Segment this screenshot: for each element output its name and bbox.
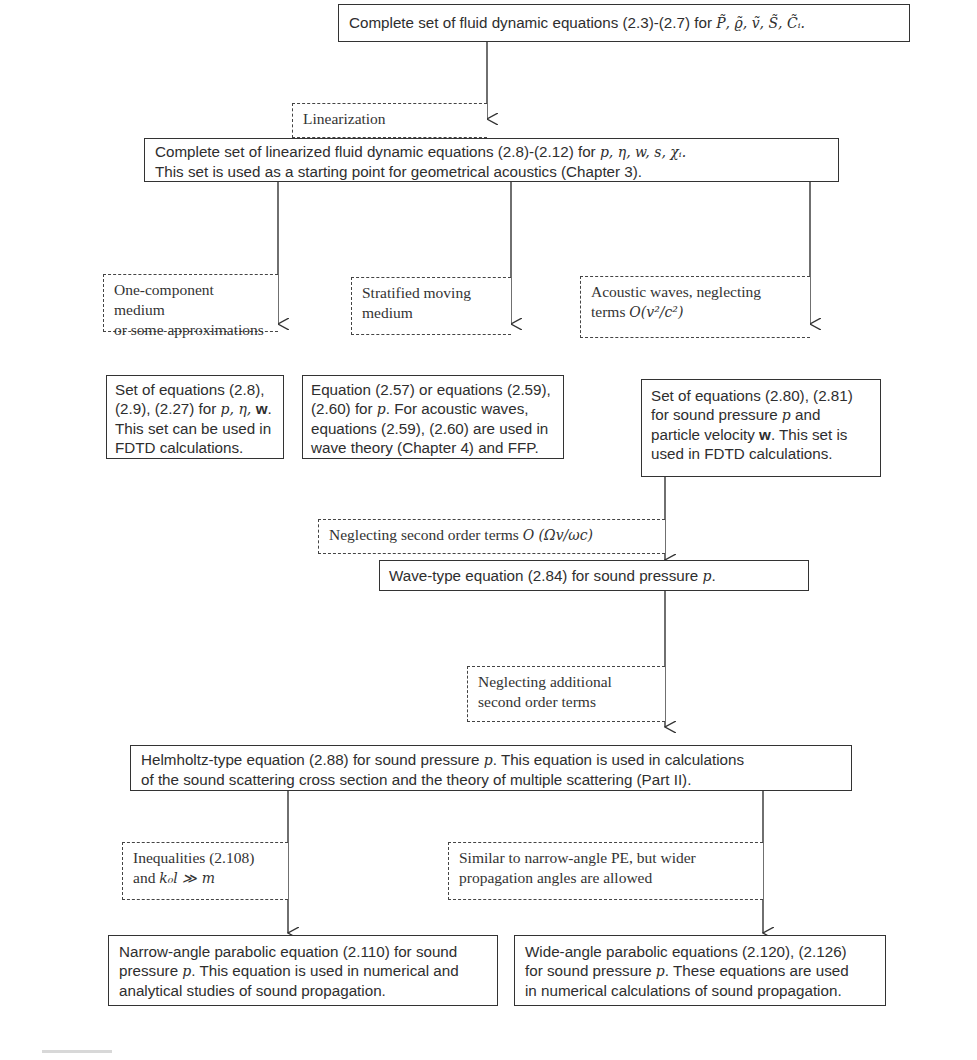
- condition-line: Acoustic waves, neglecting: [591, 282, 800, 302]
- node-line: of the sound scattering cross section an…: [141, 770, 841, 789]
- node-vars: P̃, ϱ̃, ṽ, S̃, C̃ᵢ.: [716, 15, 805, 31]
- node-line: Narrow-angle parabolic equation (2.110) …: [119, 942, 487, 961]
- node-vector: w: [256, 400, 268, 417]
- condition-line: terms: [591, 303, 629, 320]
- node-narrow-angle-pe: Narrow-angle parabolic equation (2.110) …: [108, 935, 498, 1006]
- condition-line: Neglecting additional: [478, 672, 655, 692]
- node-var: p: [377, 401, 386, 417]
- node-line: . These equations are used: [665, 962, 849, 979]
- condition-line: Similar to narrow-angle PE, but wider: [459, 848, 753, 868]
- node-line: . This equation is used in calculations: [493, 751, 744, 768]
- condition-line: propagation angles are allowed: [459, 868, 753, 888]
- condition-acoustic-waves: Acoustic waves, neglecting terms O(v²/c²…: [580, 276, 810, 338]
- node-helmholtz-equation: Helmholtz-type equation (2.88) for sound…: [130, 745, 852, 791]
- node-line: (2.60) for: [311, 400, 377, 417]
- node-line: Helmholtz-type equation (2.88) for sound…: [141, 751, 484, 768]
- condition-line: second order terms: [478, 692, 655, 712]
- node-line: This set is used as a starting point for…: [155, 162, 828, 181]
- node-line: pressure: [119, 962, 182, 979]
- node-line: wave theory (Chapter 4) and FFP.: [311, 438, 555, 457]
- node-text: Complete set of fluid dynamic equations …: [349, 14, 716, 31]
- condition-math: O (Ωv/ωc): [523, 527, 593, 543]
- node-wide-angle-pe: Wide-angle parabolic equations (2.120), …: [514, 935, 886, 1006]
- node-line: Equation (2.57) or equations (2.59),: [311, 380, 555, 399]
- node-line: used in FDTD calculations.: [651, 444, 871, 463]
- node-line: Complete set of linearized fluid dynamic…: [155, 143, 600, 160]
- condition-line: medium: [362, 303, 501, 323]
- node-line: FDTD calculations.: [115, 438, 275, 457]
- condition-line: Stratified moving: [362, 283, 501, 303]
- node-var: p: [656, 963, 665, 979]
- condition-text: Linearization: [303, 110, 386, 127]
- node-line: analytical studies of sound propagation.: [119, 981, 487, 1000]
- condition-neglect-second-order: Neglecting second order terms O (Ωv/ωc): [318, 519, 665, 554]
- condition-linearization: Linearization: [292, 103, 487, 138]
- node-var: p: [782, 407, 791, 423]
- node-line: . This set is: [771, 426, 848, 443]
- node-line: .: [268, 400, 272, 417]
- node-stratified-equations: Equation (2.57) or equations (2.59), (2.…: [302, 375, 564, 459]
- node-vars: p, η, w, s, χᵢ.: [600, 144, 686, 160]
- node-line: Wave-type equation (2.84) for sound pres…: [389, 567, 702, 584]
- node-line: particle velocity: [651, 426, 759, 443]
- node-line: . This equation is used in numerical and: [191, 962, 458, 979]
- condition-stratified-moving-medium: Stratified moving medium: [351, 277, 511, 335]
- condition-inequalities: Inequalities (2.108) and k₀l ≫ m: [122, 842, 288, 900]
- node-line: (2.9), (2.27) for: [115, 400, 221, 417]
- condition-text: Neglecting second order terms: [329, 526, 523, 543]
- condition-math: k₀l ≫ m: [159, 870, 215, 886]
- node-line: in numerical calculations of sound propa…: [525, 981, 875, 1000]
- flowchart-canvas: Complete set of fluid dynamic equations …: [0, 0, 977, 1060]
- node-fluid-dynamic-equations: Complete set of fluid dynamic equations …: [338, 4, 910, 42]
- node-linearized-equations: Complete set of linearized fluid dynamic…: [144, 138, 839, 182]
- condition-neglect-additional-terms: Neglecting additional second order terms: [467, 666, 665, 722]
- condition-math: O(v²/c²): [629, 304, 683, 320]
- node-line: This set can be used in: [115, 419, 275, 438]
- condition-line: One-component medium: [114, 280, 268, 320]
- condition-line: Inequalities (2.108): [133, 848, 278, 868]
- node-line: equations (2.59), (2.60) are used in: [311, 419, 555, 438]
- node-var: p: [182, 963, 191, 979]
- node-vars: p, η,: [221, 401, 256, 417]
- node-vector: w: [759, 426, 771, 443]
- figure-caption-fragment: [42, 1050, 112, 1053]
- condition-one-component-medium: One-component medium or some approximati…: [103, 274, 278, 332]
- node-line: . For acoustic waves,: [386, 400, 529, 417]
- node-line: for sound pressure: [651, 406, 782, 423]
- node-var: p: [484, 752, 493, 768]
- node-line: Wide-angle parabolic equations (2.120), …: [525, 942, 875, 961]
- node-wave-type-equation: Wave-type equation (2.84) for sound pres…: [379, 560, 809, 591]
- condition-line: and: [133, 869, 159, 886]
- node-fdtd-set-equations: Set of equations (2.8), (2.9), (2.27) fo…: [106, 375, 284, 459]
- node-line: .: [711, 567, 715, 584]
- condition-line: or some approximations: [114, 320, 268, 340]
- node-line: for sound pressure: [525, 962, 656, 979]
- node-line: Set of equations (2.8),: [115, 380, 275, 399]
- node-line: Set of equations (2.80), (2.81): [651, 386, 871, 405]
- condition-wider-angles: Similar to narrow-angle PE, but wider pr…: [448, 842, 763, 900]
- node-sound-pressure-velocity-equations: Set of equations (2.80), (2.81) for soun…: [641, 379, 881, 477]
- node-line: and: [791, 406, 821, 423]
